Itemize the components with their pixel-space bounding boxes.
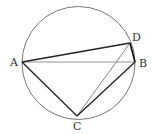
geometry-diagram: A B C D (0, 0, 152, 134)
label-a: A (9, 56, 19, 69)
segment-ac (22, 62, 77, 116)
label-c: C (73, 120, 81, 133)
label-d: D (132, 31, 141, 44)
label-b: B (139, 57, 147, 70)
segment-cb (77, 62, 135, 116)
circle (22, 7, 135, 120)
segment-cd (77, 43, 130, 116)
segment-ad (22, 43, 130, 62)
diagram-canvas: A B C D (0, 0, 152, 134)
